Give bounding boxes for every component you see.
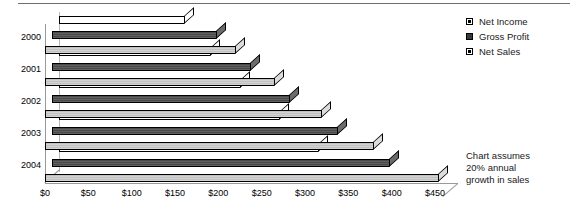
bar-2000-netsales — [45, 46, 236, 54]
x-axis-tick-usd-250: $250 — [242, 188, 282, 198]
bar-face — [52, 159, 390, 167]
bar-face — [52, 95, 290, 103]
legend-swatch-icon — [466, 18, 473, 25]
x-axis-tick-usd-300: $300 — [285, 188, 325, 198]
bar-face — [52, 63, 251, 71]
bar-face — [52, 31, 217, 39]
bar-face — [52, 127, 338, 135]
legend-label: Gross Profit — [479, 31, 529, 42]
bar-face — [45, 110, 322, 118]
y-axis-tick-2001: 2001 — [1, 64, 41, 74]
legend-label: Net Income — [479, 16, 528, 27]
top-divider-rule — [18, 3, 570, 4]
x-axis-tick-usd-450: $450 — [415, 188, 455, 198]
y-axis-tick-2002: 2002 — [1, 96, 41, 106]
legend-label: Net Sales — [479, 46, 520, 57]
chart-legend: Net IncomeGross ProfitNet Sales — [466, 15, 570, 60]
y-axis-tick-2000: 2000 — [1, 32, 41, 42]
chart-annotation: Chart assumes 20% annual growth in sales — [466, 150, 572, 186]
x-axis-tick-usd-400: $400 — [372, 188, 412, 198]
annotation-line-2: 20% annual — [466, 162, 572, 174]
bar-face — [45, 78, 275, 86]
x-axis-tick-usd-100: $100 — [112, 188, 152, 198]
legend-item-net-income[interactable]: Net Income — [466, 15, 570, 28]
annotation-line-1: Chart assumes — [466, 150, 572, 162]
bar-face — [45, 142, 374, 150]
bar-2000-netincome — [59, 16, 185, 24]
y-axis-tick-2004: 2004 — [1, 160, 41, 170]
legend-swatch-icon — [466, 33, 473, 40]
annotation-line-3: growth in sales — [466, 174, 572, 186]
x-axis-tick-usd-200: $200 — [198, 188, 238, 198]
bar-2001-grossprofit — [52, 63, 251, 71]
y-axis-tick-labels: 20042003200220012000 — [0, 12, 41, 184]
x-axis-tick-usd-350: $350 — [328, 188, 368, 198]
bar-2001-netsales — [45, 78, 275, 86]
bar-2004-grossprofit — [52, 159, 390, 167]
bar-2003-grossprofit — [52, 127, 338, 135]
bar-face — [45, 174, 439, 182]
x-axis-tick-labels: $0$50$100$150$200$250$300$350$400$450 — [45, 188, 465, 204]
x-axis-tick-usd-50: $50 — [68, 188, 108, 198]
y-axis-tick-2003: 2003 — [1, 128, 41, 138]
bar-2000-grossprofit — [52, 31, 217, 39]
bar-2003-netsales — [45, 142, 374, 150]
bar-face — [59, 16, 185, 24]
legend-swatch-icon — [466, 48, 473, 55]
x-axis-line — [45, 183, 458, 184]
plot-area — [45, 12, 458, 184]
x-axis-tick-usd-0: $0 — [25, 188, 65, 198]
bar-2004-netsales — [45, 174, 439, 182]
bar-2002-netsales — [45, 110, 322, 118]
bar-2002-grossprofit — [52, 95, 290, 103]
x-axis-tick-usd-150: $150 — [155, 188, 195, 198]
legend-item-net-sales[interactable]: Net Sales — [466, 45, 570, 58]
bar-face — [45, 46, 236, 54]
legend-item-gross-profit[interactable]: Gross Profit — [466, 30, 570, 43]
chart-container: 20042003200220012000 $0$50$100$150$200$2… — [0, 0, 575, 217]
